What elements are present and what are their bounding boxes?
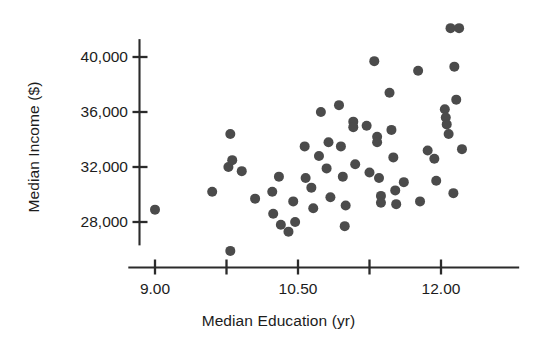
data-point [150, 205, 160, 215]
data-point [372, 137, 382, 147]
data-point [301, 173, 311, 183]
data-point [446, 23, 456, 33]
data-point [348, 122, 358, 132]
data-point [267, 187, 277, 197]
data-point [431, 176, 441, 186]
data-point [451, 95, 461, 105]
data-point [324, 137, 334, 147]
plot-area: Median Income ($) Median Education (yr) … [0, 0, 557, 349]
x-tick-label: 9.00 [140, 280, 170, 298]
data-point [316, 107, 326, 117]
data-point [338, 172, 348, 182]
data-point [290, 217, 300, 227]
data-point [283, 227, 293, 237]
data-point [386, 125, 396, 135]
data-point [454, 23, 464, 33]
data-point [341, 201, 351, 211]
data-point [429, 154, 439, 164]
data-point [448, 188, 458, 198]
data-point [334, 100, 344, 110]
data-point [444, 129, 454, 139]
data-point [442, 119, 452, 129]
data-point [457, 144, 467, 154]
data-point [300, 141, 310, 151]
y-tick-label: 40,000 [20, 48, 128, 66]
data-point [314, 151, 324, 161]
data-point [369, 56, 379, 66]
data-point [350, 159, 360, 169]
data-point [399, 177, 409, 187]
data-points-group [150, 23, 467, 256]
data-point [250, 194, 260, 204]
data-point [415, 196, 425, 206]
data-point [449, 62, 459, 72]
data-point [340, 221, 350, 231]
data-point [325, 192, 335, 202]
y-tick-label: 36,000 [20, 103, 128, 121]
data-point [423, 146, 433, 156]
data-point [385, 88, 395, 98]
x-tick-label: 12.00 [422, 280, 461, 298]
data-point [274, 172, 284, 182]
data-point [376, 198, 386, 208]
data-point [288, 196, 298, 206]
data-point [391, 199, 401, 209]
data-point [390, 185, 400, 195]
data-point [237, 166, 247, 176]
data-point [365, 168, 375, 178]
y-tick-label: 28,000 [20, 213, 128, 231]
data-point [227, 155, 237, 165]
data-point [388, 152, 398, 162]
data-point [207, 187, 217, 197]
data-point [276, 220, 286, 230]
data-point [268, 209, 278, 219]
data-point [336, 141, 346, 151]
data-point [322, 163, 332, 173]
data-point [225, 129, 235, 139]
data-point [362, 121, 372, 131]
x-tick-label: 10.50 [279, 280, 318, 298]
data-point [306, 183, 316, 193]
data-point [225, 246, 235, 256]
data-point [374, 173, 384, 183]
scatter-plot-figure: Median Income ($) Median Education (yr) … [0, 0, 557, 349]
y-tick-label: 32,000 [20, 158, 128, 176]
data-point [413, 66, 423, 76]
data-point [308, 203, 318, 213]
